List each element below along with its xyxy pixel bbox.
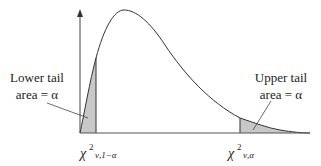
- upper-critical-value-label: χ 2 ν,α: [226, 142, 254, 161]
- lower-critical-value-label: χ 2 ν,1−α: [78, 142, 117, 161]
- lower-leader-line: [47, 103, 88, 118]
- svg-text:ν,α: ν,α: [243, 150, 254, 160]
- chi-square-diagram: Lower tail area = α Upper tail area = α …: [0, 0, 321, 166]
- y-axis-arrow-icon: [77, 9, 83, 17]
- svg-text:ν,1−α: ν,1−α: [95, 150, 117, 160]
- upper-tail-area: [240, 118, 310, 133]
- upper-tail-area-label: area = α: [260, 87, 302, 102]
- lower-tail-label: Lower tail: [10, 70, 64, 85]
- svg-text:2: 2: [237, 142, 242, 152]
- svg-text:2: 2: [89, 142, 94, 152]
- upper-tail-label: Upper tail: [255, 70, 308, 85]
- lower-tail-area-label: area = α: [16, 87, 58, 102]
- svg-text:χ: χ: [78, 146, 87, 161]
- svg-text:χ: χ: [226, 146, 235, 161]
